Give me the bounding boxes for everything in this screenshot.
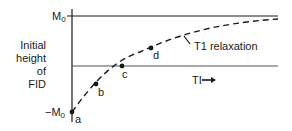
tick-neg-m0: −M0	[45, 106, 65, 118]
point-label-a: a	[75, 113, 81, 125]
label-pointer	[184, 36, 190, 44]
y-axis-label: Initial height of FID	[2, 39, 46, 91]
tick-m0: M0	[52, 10, 66, 22]
ti-arrow-icon	[211, 77, 216, 83]
point-label-c: c	[122, 68, 128, 80]
point-a	[70, 110, 75, 115]
point-label-b: b	[98, 86, 104, 98]
curve-label: T1 relaxation	[194, 40, 258, 52]
x-axis-label: TI	[192, 74, 202, 86]
point-label-d: d	[153, 49, 159, 61]
